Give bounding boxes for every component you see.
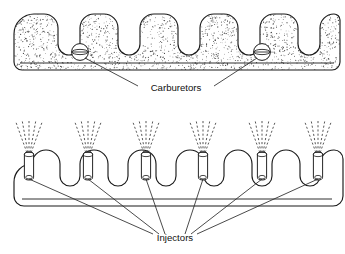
- stipple-dot: [163, 24, 164, 25]
- stipple-dot: [283, 19, 284, 20]
- stipple-dot: [161, 37, 162, 38]
- stipple-dot: [286, 47, 287, 48]
- stipple-dot: [290, 27, 291, 28]
- stipple-dot: [67, 34, 68, 35]
- stipple-dot: [135, 24, 136, 25]
- injector-6-spray-line: [320, 121, 331, 153]
- stipple-dot: [311, 64, 312, 65]
- stipple-dot: [196, 56, 197, 57]
- stipple-dot: [273, 15, 274, 16]
- stipple-dot: [26, 55, 27, 56]
- stipple-dot: [192, 50, 193, 51]
- stipple-dot: [318, 24, 319, 25]
- stipple-dot: [131, 29, 132, 30]
- stipple-dot: [100, 30, 101, 31]
- stipple-dot: [201, 65, 202, 66]
- stipple-dot: [303, 50, 304, 51]
- stipple-dot: [184, 26, 185, 27]
- stipple-dot: [233, 32, 234, 33]
- stipple-dot: [81, 23, 82, 24]
- stipple-dot: [92, 39, 93, 40]
- stipple-dot: [67, 67, 68, 68]
- stipple-dot: [281, 29, 282, 30]
- stipple-dot: [155, 58, 156, 59]
- stipple-dot: [101, 68, 102, 69]
- stipple-dot: [165, 61, 166, 62]
- stipple-dot: [343, 62, 344, 63]
- stipple-dot: [186, 28, 187, 29]
- stipple-dot: [275, 66, 276, 67]
- stipple-dot: [193, 19, 194, 20]
- stipple-dot: [133, 14, 134, 15]
- stipple-dot: [123, 71, 124, 72]
- stipple-dot: [282, 48, 283, 49]
- stipple-dot: [330, 31, 331, 32]
- stipple-dot: [286, 33, 287, 34]
- stipple-dot: [62, 43, 63, 44]
- stipple-dot: [107, 31, 108, 32]
- stipple-dot: [212, 18, 213, 19]
- stipple-dot: [116, 29, 117, 30]
- stipple-dot: [168, 28, 169, 29]
- stipple-dot: [134, 71, 135, 72]
- stipple-dot: [253, 14, 254, 15]
- stipple-dot: [234, 68, 235, 69]
- stipple-dot: [342, 30, 343, 31]
- stipple-dot: [270, 15, 271, 16]
- stipple-dot: [138, 14, 139, 15]
- stipple-dot: [287, 35, 288, 36]
- stipple-dot: [109, 47, 110, 48]
- stipple-dot: [145, 22, 146, 23]
- stipple-dot: [55, 15, 56, 16]
- stipple-dot: [310, 51, 311, 52]
- stipple-dot: [107, 39, 108, 40]
- stipple-dot: [237, 39, 238, 40]
- stipple-dot: [259, 14, 260, 15]
- injector-1-spray-line: [16, 121, 27, 153]
- stipple-dot: [78, 65, 79, 66]
- stipple-dot: [173, 13, 174, 14]
- stipple-dot: [116, 40, 117, 41]
- stipple-dot: [259, 16, 260, 17]
- stipple-dot: [120, 12, 121, 13]
- stipple-dot: [34, 71, 35, 72]
- stipple-dot: [322, 55, 323, 56]
- stipple-dot: [196, 39, 197, 40]
- stipple-dot: [193, 69, 194, 70]
- stipple-dot: [138, 30, 139, 31]
- stipple-dot: [110, 42, 111, 43]
- stipple-dot: [167, 21, 168, 22]
- stipple-dot: [195, 67, 196, 68]
- stipple-dot: [28, 46, 29, 47]
- stipple-dot: [88, 25, 89, 26]
- stipple-dot: [178, 17, 179, 18]
- stipple-dot: [172, 57, 173, 58]
- stipple-dot: [327, 54, 328, 55]
- stipple-dot: [229, 28, 230, 29]
- stipple-dot: [215, 58, 216, 59]
- stipple-dot: [181, 69, 182, 70]
- stipple-dot: [72, 25, 73, 26]
- stipple-dot: [166, 68, 167, 69]
- stipple-dot: [196, 63, 197, 64]
- stipple-dot: [128, 32, 129, 33]
- stipple-dot: [250, 55, 251, 56]
- stipple-dot: [336, 39, 337, 40]
- stipple-dot: [129, 51, 130, 52]
- stipple-dot: [98, 58, 99, 59]
- stipple-dot: [192, 20, 193, 21]
- stipple-dot: [250, 17, 251, 18]
- stipple-dot: [137, 71, 138, 72]
- stipple-dot: [293, 47, 294, 48]
- stipple-dot: [127, 61, 128, 62]
- stipple-dot: [26, 71, 27, 72]
- stipple-dot: [278, 68, 279, 69]
- stipple-dot: [117, 17, 118, 18]
- stipple-dot: [56, 14, 57, 15]
- stipple-dot: [254, 20, 255, 21]
- stipple-dot: [189, 37, 190, 38]
- stipple-dot: [43, 43, 44, 44]
- stipple-dot: [27, 66, 28, 67]
- stipple-dot: [193, 65, 194, 66]
- injectors-label: Injectors: [157, 232, 193, 243]
